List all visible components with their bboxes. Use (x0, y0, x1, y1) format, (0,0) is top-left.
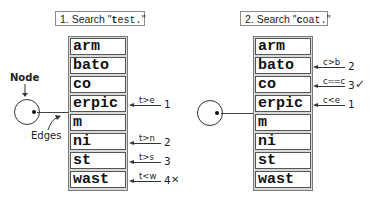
array-cell: wast (255, 171, 311, 188)
array-cell: arm (70, 38, 126, 55)
step-number: 3 (348, 79, 355, 91)
comparison-text: c<e (323, 95, 340, 105)
array-cell: ni (70, 133, 126, 150)
array-cell: m (70, 114, 126, 131)
panel-2-title-suffix: " (327, 13, 331, 25)
step-number: 1 (164, 98, 171, 110)
step-number: 3 (164, 155, 171, 167)
panel-2-annotation: c>b 2 (313, 58, 373, 70)
panel-1-title-prefix: 1. Search " (60, 13, 112, 25)
array-cell: ni (255, 133, 311, 150)
array-cell: erpic (70, 95, 126, 112)
panel-2-title: 2. Search "coat." (240, 11, 328, 26)
node-label: Node (10, 72, 39, 83)
comparison-text: t<w (139, 171, 156, 181)
comparison-text: t>n (139, 133, 155, 143)
panel-1-sorted-array: arm bato co erpic m ni st wast (68, 36, 128, 191)
array-cell: st (255, 152, 311, 169)
panel-1-annotation: t>s 3 (129, 153, 189, 165)
panel-2-annotation: c==c 3 ✓ (313, 77, 373, 89)
panel-2-annotation: c<e 1 (313, 96, 373, 108)
panel-2-node-circle (197, 100, 223, 126)
step-number: 4 (164, 174, 171, 186)
panel-1-edge-line (37, 112, 68, 113)
panel-2-title-rest: oat. (303, 15, 327, 26)
step-number: 2 (164, 136, 171, 148)
panel-1-title-suffix: " (142, 13, 146, 25)
array-cell: m (255, 114, 311, 131)
panel-1-annotation: t>e 1 (129, 96, 189, 108)
array-cell: st (70, 152, 126, 169)
array-cell: arm (255, 38, 311, 55)
panel-2-sorted-array: arm bato co erpic m ni st wast (253, 36, 313, 191)
node-arrow-icon (20, 84, 30, 98)
array-cell: bato (70, 57, 126, 74)
comparison-text: t>e (139, 95, 155, 105)
array-cell: wast (70, 171, 126, 188)
node-dot-icon (32, 110, 36, 114)
array-cell: co (70, 76, 126, 93)
comparison-text: c>b (323, 57, 340, 67)
panel-2-edge-line (221, 113, 253, 114)
edges-arrow-icon (45, 114, 63, 132)
array-cell: bato (255, 57, 311, 74)
panel-1-title: 1. Search "test." (55, 11, 145, 26)
success-check-icon: ✓ (355, 77, 365, 91)
array-cell: co (255, 76, 311, 93)
array-cell: erpic (255, 95, 311, 112)
panel-1-title-rest: est. (118, 15, 142, 26)
step-number: 2 (348, 60, 355, 72)
node-dot-icon (215, 111, 219, 115)
panel-2-title-prefix: 2. Search " (245, 13, 297, 25)
comparison-text: t>s (139, 152, 154, 162)
fail-x-icon: ✕ (171, 174, 179, 185)
panel-1-annotation: t>n 2 (129, 134, 189, 146)
step-number: 1 (348, 98, 355, 110)
panel-1-annotation: t<w 4 ✕ (129, 172, 189, 184)
comparison-text: c==c (323, 76, 345, 86)
